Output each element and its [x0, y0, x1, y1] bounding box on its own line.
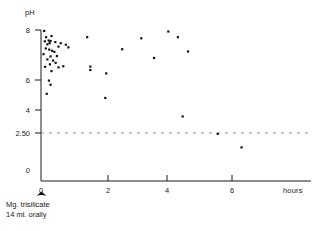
- data-point: [140, 37, 142, 39]
- data-point: [44, 66, 46, 68]
- data-point: [49, 55, 51, 57]
- data-point: [89, 69, 91, 71]
- data-point-group: [42, 30, 242, 149]
- dose-marker-icon: [36, 191, 47, 197]
- data-point: [57, 46, 59, 48]
- data-point: [49, 40, 51, 42]
- data-point: [50, 70, 52, 72]
- data-point: [55, 62, 57, 64]
- data-point: [50, 35, 52, 37]
- data-point: [48, 79, 50, 81]
- dose-annotation-line-1: Mg. trisilicate: [6, 200, 50, 210]
- data-point: [51, 50, 53, 52]
- dose-annotation: Mg. trisilicate 14 ml. orally: [6, 200, 50, 219]
- data-point: [54, 41, 56, 43]
- y-axis-ticks: [35, 30, 41, 133]
- data-point: [45, 47, 47, 49]
- data-point: [48, 49, 50, 51]
- data-point: [182, 115, 184, 117]
- data-point: [121, 48, 123, 50]
- data-point: [67, 46, 69, 48]
- data-point: [240, 146, 242, 148]
- data-point: [48, 42, 50, 44]
- data-point: [45, 36, 47, 38]
- data-point: [46, 43, 48, 45]
- data-point: [105, 72, 107, 74]
- axes: [41, 30, 311, 181]
- data-point: [217, 133, 219, 135]
- data-point: [89, 66, 91, 68]
- x-axis-ticks: [108, 175, 232, 181]
- data-point: [49, 63, 51, 65]
- data-point: [42, 53, 44, 55]
- data-point: [60, 42, 62, 44]
- data-point: [46, 58, 48, 60]
- data-point: [56, 55, 58, 57]
- data-point: [62, 65, 64, 67]
- data-point: [43, 30, 45, 32]
- data-point: [44, 40, 46, 42]
- data-point: [57, 66, 59, 68]
- data-point: [53, 51, 55, 53]
- ph-scatter-chart: pH hours 8 6 4 2.50 0 0 2 4 6 Mg. trisil…: [0, 0, 325, 231]
- data-point: [167, 30, 169, 32]
- plot-area: [0, 0, 325, 231]
- data-point: [46, 93, 48, 95]
- data-point: [48, 39, 50, 41]
- data-point: [177, 36, 179, 38]
- data-point: [104, 97, 106, 99]
- data-point: [52, 59, 54, 61]
- data-point: [49, 84, 51, 86]
- dose-annotation-line-2: 14 ml. orally: [6, 210, 50, 220]
- data-point: [153, 57, 155, 59]
- data-point: [65, 44, 67, 46]
- data-point: [86, 36, 88, 38]
- data-point: [187, 50, 189, 52]
